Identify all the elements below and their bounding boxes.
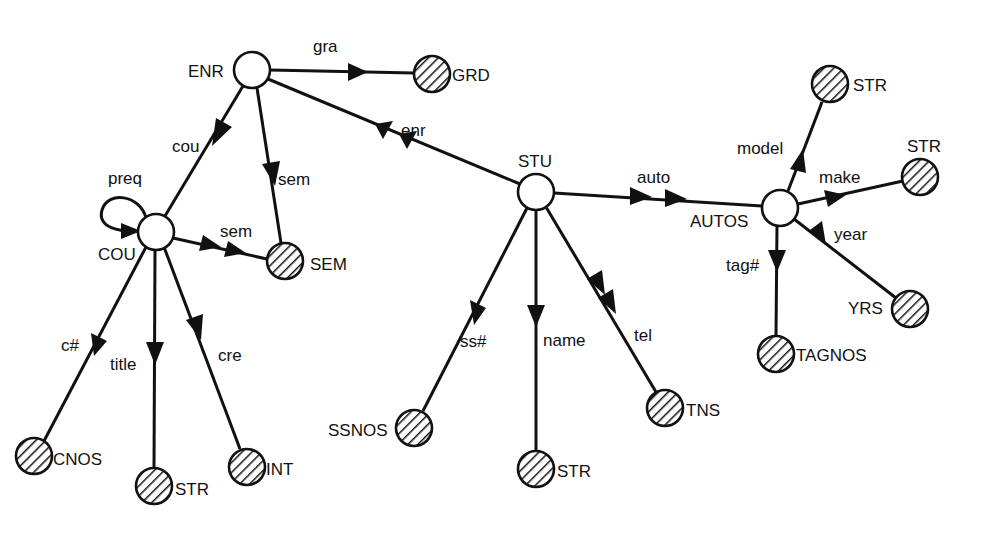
- node-cnos[interactable]: [16, 438, 52, 474]
- node-label-stu: STU: [518, 152, 552, 171]
- edge-cou-sem: [173, 238, 267, 259]
- edge-label-gra: gra: [313, 37, 338, 56]
- node-yrs[interactable]: [892, 291, 928, 327]
- arrow-icon: [527, 305, 545, 327]
- arrow-icon: [212, 118, 232, 146]
- edge-label-cre: cre: [218, 346, 242, 365]
- node-str-name[interactable]: [518, 451, 554, 487]
- node-sem[interactable]: [267, 243, 303, 279]
- node-label-cou: COU: [98, 245, 136, 264]
- edges: [44, 63, 903, 468]
- edge-label-name: name: [543, 331, 586, 350]
- edge-label-tag-num: tag#: [726, 256, 760, 275]
- edge-label-model: model: [737, 139, 783, 158]
- node-str-make[interactable]: [902, 159, 938, 195]
- schema-diagram: ENR GRD COU SEM STU AUTOS STR STR YRS TA…: [0, 0, 999, 540]
- node-label-cnos: CNOS: [53, 450, 102, 469]
- node-enr[interactable]: [234, 52, 270, 88]
- edge-label-cou: cou: [172, 137, 199, 156]
- node-int[interactable]: [229, 449, 265, 485]
- edge-label-c-num: c#: [61, 336, 80, 355]
- edge-label-year: year: [834, 225, 867, 244]
- arrow-icon: [768, 250, 786, 272]
- edge-autos-tagnos: [776, 226, 777, 336]
- node-ssnos[interactable]: [396, 410, 432, 446]
- edge-stu-autos: [554, 193, 762, 206]
- edge-label-sem-enr: sem: [278, 170, 310, 189]
- node-label-int: INT: [266, 460, 293, 479]
- node-str-title[interactable]: [136, 468, 172, 504]
- node-label-str-model: STR: [853, 76, 887, 95]
- node-grd[interactable]: [414, 56, 450, 92]
- node-label-sem: SEM: [310, 255, 347, 274]
- node-cou[interactable]: [138, 214, 174, 250]
- edge-enr-grd: [270, 70, 414, 73]
- node-tns[interactable]: [647, 390, 683, 426]
- edge-label-preq: preq: [108, 169, 142, 188]
- arrow-icon: [186, 314, 203, 340]
- edge-label-make: make: [819, 168, 861, 187]
- node-label-str-make: STR: [907, 137, 941, 156]
- arrow-icon: [146, 342, 164, 365]
- arrow-icon: [630, 187, 652, 205]
- node-label-tagnos: TAGNOS: [796, 346, 867, 365]
- node-label-tns: TNS: [686, 401, 720, 420]
- edge-label-enr: enr: [401, 121, 426, 140]
- node-tagnos[interactable]: [758, 336, 794, 372]
- arrow-icon: [665, 189, 687, 207]
- arrow-icon: [824, 190, 846, 207]
- edge-label-title: title: [110, 355, 136, 374]
- edge-label-auto: auto: [637, 168, 670, 187]
- node-labels: ENR GRD COU SEM STU AUTOS STR STR YRS TA…: [53, 62, 941, 499]
- node-label-yrs: YRS: [848, 299, 883, 318]
- node-label-grd: GRD: [452, 66, 490, 85]
- arrow-icon: [348, 63, 368, 81]
- node-stu[interactable]: [518, 174, 554, 210]
- node-label-ssnos: SSNOS: [328, 421, 388, 440]
- node-autos[interactable]: [762, 190, 798, 226]
- edge-label-sem-cou: sem: [220, 222, 252, 241]
- edge-stu-enr: [268, 79, 520, 184]
- node-label-str-name: STR: [557, 462, 591, 481]
- node-str-model[interactable]: [812, 66, 848, 102]
- edge-label-ss-num: ss#: [460, 332, 487, 351]
- node-label-str-title: STR: [175, 480, 209, 499]
- edge-label-tel: tel: [634, 326, 652, 345]
- edge-autos-model: [788, 102, 822, 191]
- node-label-autos: AUTOS: [690, 212, 748, 231]
- node-label-enr: ENR: [188, 62, 224, 81]
